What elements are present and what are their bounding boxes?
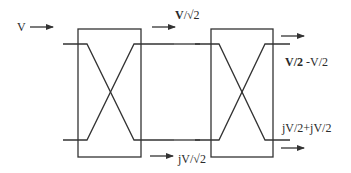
input-label: V [17,21,26,33]
out-bottom-label: jV/2+jV/2 [282,122,331,134]
coupler-diagram [0,0,351,173]
mid-top-label-bold: V [175,8,184,22]
mid-top-label-rest: /√2 [184,8,200,22]
coupler-1-top-path [63,44,174,140]
mid-top-label: V/√2 [175,9,200,21]
out-top-label-rest: -V/2 [303,55,328,69]
coupler-1-bottom-path [63,44,174,140]
out-top-label-bold: V/2 [285,55,303,69]
mid-bottom-label: jV/√2 [178,153,206,165]
out-top-label: V/2 -V/2 [285,56,328,68]
coupler-2-bottom-path [195,44,290,140]
